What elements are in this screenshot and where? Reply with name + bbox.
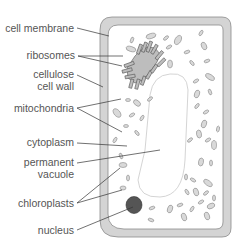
label-text: ribosomes [27,49,75,61]
label-chloroplasts: chloroplasts [18,197,74,209]
label-text: cytoplasm [27,136,74,148]
label-cytoplasm: cytoplasm [27,136,74,148]
label-nucleus: nucleus [38,224,74,236]
label-text: nucleus [38,224,74,236]
label-text: mitochondria [14,102,74,114]
label-text: cell membrane [5,22,74,34]
label-text: cellulose [33,68,74,80]
label-text: cell wall [33,80,74,92]
label-ribosomes: ribosomes [27,49,75,61]
label-cell-membrane: cell membrane [5,22,74,34]
label-permanent-vacuole: permanent vacuole [24,156,74,180]
label-cellulose-cell-wall: cellulose cell wall [33,68,74,92]
label-text: permanent [24,156,74,168]
leader-cell-wall [77,75,103,87]
label-mitochondria: mitochondria [14,102,74,114]
label-text: vacuole [24,168,74,180]
plant-cell-diagram: cell membrane ribosomes cellulose cell w… [0,0,240,245]
label-text: chloroplasts [18,197,74,209]
nucleus [126,197,142,214]
